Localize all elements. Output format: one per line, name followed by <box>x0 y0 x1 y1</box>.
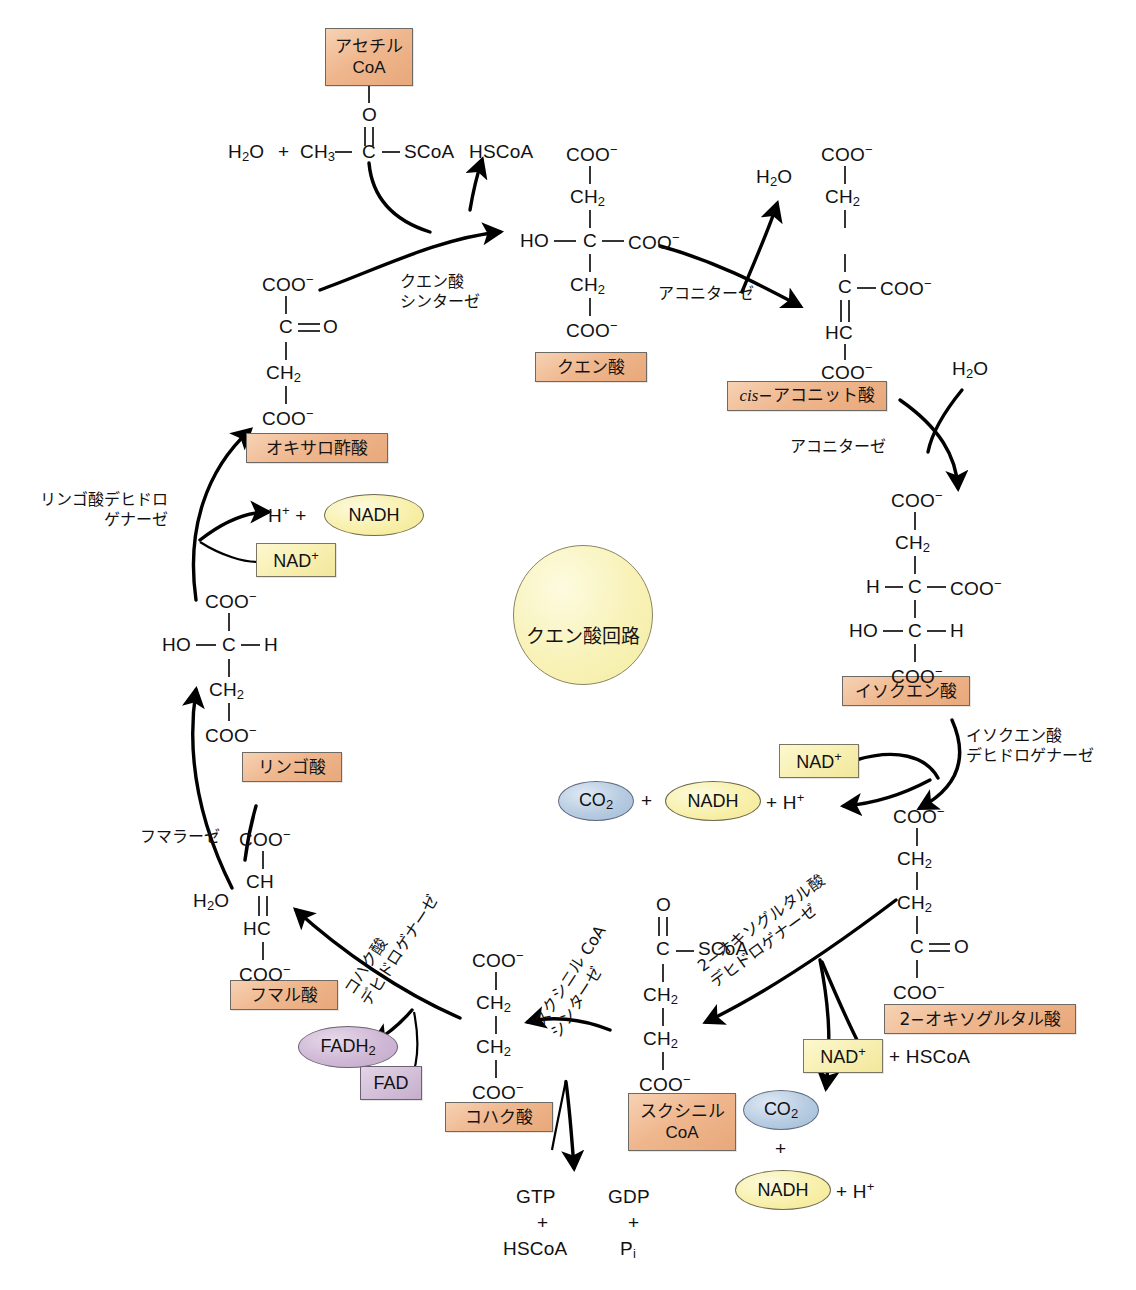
cis-aconitate-italic: cis <box>739 386 758 405</box>
nad-label-1: NAD <box>273 551 311 571</box>
metabolite-cis-aconitate[interactable]: cis−アコニット酸 <box>727 381 887 411</box>
fumarate-label: フマル酸 <box>250 985 318 1005</box>
structure-isocitrate-h-right: H <box>950 620 964 642</box>
cofactor-nadh-malate[interactable]: NADH <box>324 494 424 536</box>
structure-isocitrate-ho: HO <box>849 620 878 642</box>
co2-label-2: CO <box>764 1099 791 1119</box>
output-gtp: GTP <box>516 1186 556 1208</box>
structure-malate-ho: HO <box>162 634 191 656</box>
isocitrate-dh-line2: デヒドロゲナーゼ <box>966 746 1094 765</box>
metabolite-succinate[interactable]: コハク酸 <box>445 1102 553 1132</box>
cofactor-nad-plus-isocitrate[interactable]: NAD+ <box>779 744 859 778</box>
structure-h2o-aconitase1: H2O <box>756 166 792 189</box>
structure-oxaloacetate-ch2: CH2 <box>266 362 301 385</box>
cofactor-co2-isocitrate[interactable]: CO2 <box>558 781 634 821</box>
cofactor-nadh-isocitrate[interactable]: NADH <box>665 781 761 821</box>
aconitase2-label: アコニターゼ <box>790 437 886 456</box>
structure-h2o-fumarase: H2O <box>193 890 229 913</box>
structure-aconitate-coo-top: COO− <box>821 142 873 166</box>
fadh2-label: FADH <box>320 1036 368 1056</box>
structure-fumarate-coo-top: COO− <box>239 827 291 851</box>
structure-malate-c: C <box>222 634 236 656</box>
input-gdp: GDP <box>608 1186 650 1208</box>
nadh-label-2: NADH <box>687 791 738 812</box>
structure-oxaloacetate-coo-bottom: COO− <box>262 406 314 430</box>
structure-oxaloacetate-c: C <box>279 316 293 338</box>
aconitase1-label: アコニターゼ <box>658 284 754 303</box>
nadh-label-1: NADH <box>348 505 399 526</box>
succinyl-coa-line1: スクシニル <box>640 1101 725 1121</box>
co2-sub-2: 2 <box>791 1106 798 1121</box>
structure-isocitrate-c-lower: C <box>908 620 922 642</box>
structure-oxoglutarate-o: O <box>954 936 969 958</box>
structure-fumarate-coo-bottom: COO− <box>239 962 291 986</box>
structure-acetyl-c: C <box>362 141 376 163</box>
cofactor-co2-oxoglutarate[interactable]: CO2 <box>743 1090 819 1130</box>
structure-succinylcoa-c: C <box>656 938 670 960</box>
structure-succinylcoa-ch2-upper: CH2 <box>643 984 678 1007</box>
structure-aconitate-c: C <box>838 276 852 298</box>
input-pi: Pi <box>620 1238 636 1261</box>
nad-label-2: NAD <box>796 752 834 772</box>
cycle-center-text: クエン酸回路 <box>526 621 640 648</box>
structure-h2o-aconitase2: H2O <box>952 358 988 381</box>
nad-sup-3: + <box>858 1044 866 1059</box>
structure-malate-h: H <box>264 634 278 656</box>
enzyme-succinate-dehydrogenase: コハク酸 デヒドロゲナーゼ <box>340 881 443 1010</box>
structure-fumarate-ch: CH <box>246 871 274 893</box>
citric-acid-cycle-diagram: アセチル CoA クエン酸 cis−アコニット酸 イソクエン酸 2−オキソグルタ… <box>0 0 1136 1290</box>
metabolite-oxaloacetate[interactable]: オキサロ酢酸 <box>246 433 388 463</box>
structure-citrate-coo-top: COO− <box>566 142 618 166</box>
structure-isocitrate-coo-bottom: COO− <box>891 664 943 688</box>
cofactor-fad[interactable]: FAD <box>360 1066 422 1100</box>
fad-label: FAD <box>373 1073 408 1094</box>
structure-citrate-coo-right: COO− <box>628 230 680 254</box>
structure-oxaloacetate-coo-top: COO− <box>262 272 314 296</box>
structure-isocitrate-c-upper: C <box>908 576 922 598</box>
structure-h2o-acetyl: H2O <box>228 141 264 164</box>
structure-aconitate-hc: HC <box>825 322 853 344</box>
oxaloacetate-label: オキサロ酢酸 <box>266 438 368 458</box>
cofactor-fadh2[interactable]: FADH2 <box>298 1026 398 1068</box>
proton-plus-isocitrate-dh: + H+ <box>766 790 805 814</box>
metabolite-succinyl-coa[interactable]: スクシニル CoA <box>628 1093 736 1151</box>
structure-acetyl-o: O <box>362 104 377 126</box>
structure-isocitrate-h-left: H <box>866 576 880 598</box>
malate-label: リンゴ酸 <box>258 757 326 777</box>
plus-sign-co2-nadh-oxoglutarate: + <box>775 1138 786 1160</box>
enzyme-oxoglutarate-dehydrogenase: 2−オキソグルタル酸 デヒドロゲナーゼ <box>694 871 840 992</box>
co2-sub-1: 2 <box>606 797 613 812</box>
cofactor-nadh-oxoglutarate[interactable]: NADH <box>735 1170 831 1210</box>
structure-plus-hscoa-oxoglutarate: + HSCoA <box>889 1046 970 1068</box>
structure-oxoglutarate-ch2-upper: CH2 <box>897 848 932 871</box>
nad-sup-2: + <box>834 749 842 764</box>
succinate-label: コハク酸 <box>465 1107 533 1127</box>
structure-oxoglutarate-coo-bottom: COO− <box>893 980 945 1004</box>
metabolite-citrate[interactable]: クエン酸 <box>535 352 647 382</box>
malate-dh-line2: ゲナーゼ <box>104 510 168 529</box>
structure-ch3: CH3 <box>300 141 335 164</box>
plus-sign-co2-nadh-isocitrate: + <box>641 790 652 812</box>
enzyme-malate-dehydrogenase: リンゴ酸デヒドロ ゲナーゼ <box>40 490 168 530</box>
structure-malate-coo-bottom: COO− <box>205 723 257 747</box>
structure-aconitate-ch2: CH2 <box>825 186 860 209</box>
fadh2-sub: 2 <box>368 1043 375 1058</box>
nadh-label-3: NADH <box>757 1180 808 1201</box>
structure-scoa-acetyl: SCoA <box>404 141 454 163</box>
enzyme-succinyl-coa-synthetase: スクシニル CoA シンターゼ <box>530 922 627 1042</box>
structure-succinylcoa-coo: COO− <box>639 1072 691 1096</box>
cis-aconitate-rest: −アコニット酸 <box>758 385 874 405</box>
structure-isocitrate-coo-top: COO− <box>891 488 943 512</box>
nad-sup-1: + <box>311 548 319 563</box>
citrate-synthase-line1: クエン酸 <box>400 272 464 291</box>
enzyme-citrate-synthase: クエン酸 シンターゼ <box>400 272 480 312</box>
structure-oxoglutarate-ch2-lower: CH2 <box>897 892 932 915</box>
proton-plus-oxoglutarate-dh: + H+ <box>836 1179 875 1203</box>
cofactor-nad-plus-malate[interactable]: NAD+ <box>256 543 336 577</box>
input-gdp-plus: + <box>628 1212 639 1234</box>
metabolite-2-oxoglutarate[interactable]: 2−オキソグルタル酸 <box>884 1004 1076 1034</box>
metabolite-acetyl-coa[interactable]: アセチル CoA <box>325 28 413 86</box>
isocitrate-dh-line1: イソクエン酸 <box>966 726 1062 745</box>
metabolite-malate[interactable]: リンゴ酸 <box>242 752 342 782</box>
cofactor-nad-plus-oxoglutarate[interactable]: NAD+ <box>803 1039 883 1073</box>
